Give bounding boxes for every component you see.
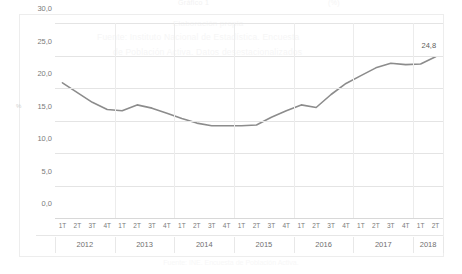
- x-axis-quarter-label: 4T: [100, 221, 115, 231]
- x-axis-quarter-label: 1T: [174, 221, 189, 231]
- x-axis-year-label: 2014: [174, 239, 234, 250]
- x-axis-quarter-label: 3T: [264, 221, 279, 231]
- x-axis-year-labels: 2012201320142015201620172018: [55, 237, 443, 255]
- x-axis-quarter-label: 3T: [204, 221, 219, 231]
- x-axis-quarter-label: 2T: [130, 221, 145, 231]
- y-axis-tick-label: 15,0: [18, 103, 52, 111]
- x-axis-quarter-label: 3T: [383, 221, 398, 231]
- year-separator: [353, 23, 354, 218]
- top-band-right-text: (%): [328, 0, 340, 6]
- year-tick: [413, 237, 414, 253]
- x-axis-year-label: 2016: [294, 239, 354, 250]
- gridline: [55, 218, 443, 219]
- year-separator: [174, 23, 175, 218]
- x-axis-quarter-labels: 1T2T3T4T1T2T3T4T1T2T3T4T1T2T3T4T1T2T3T4T…: [55, 221, 443, 235]
- x-axis-quarter-label: 1T: [55, 221, 70, 231]
- y-axis-tick-label: 20,0: [18, 70, 52, 78]
- x-axis-quarter-label: 2T: [309, 221, 324, 231]
- x-axis-year-label: 2012: [55, 239, 115, 250]
- x-axis-year-label: 2017: [353, 239, 413, 250]
- x-axis-quarter-label: 4T: [279, 221, 294, 231]
- x-axis-quarter-label: 3T: [85, 221, 100, 231]
- year-tick: [55, 237, 56, 253]
- x-axis-quarter-label: 2T: [70, 221, 85, 231]
- gridline: [55, 153, 443, 154]
- x-axis-quarter-label: 2T: [249, 221, 264, 231]
- gridline: [55, 186, 443, 187]
- gridline: [55, 121, 443, 122]
- year-tick: [294, 237, 295, 253]
- x-axis-quarter-label: 3T: [145, 221, 160, 231]
- year-separator: [413, 23, 414, 218]
- top-band: Gráfico 1 (%): [0, 0, 462, 12]
- year-tick: [443, 237, 444, 253]
- x-axis-quarter-label: 3T: [324, 221, 339, 231]
- x-axis-year-label: 2013: [115, 239, 175, 250]
- series-polyline: [62, 57, 435, 126]
- y-axis-tick-label: 5,0: [18, 168, 52, 176]
- x-axis-quarter-label: 4T: [339, 221, 354, 231]
- gridline: [55, 23, 443, 24]
- x-axis-quarter-label: 1T: [294, 221, 309, 231]
- year-tick: [115, 237, 116, 253]
- year-separator: [234, 23, 235, 218]
- x-axis-separator: [36, 235, 443, 236]
- x-axis-year-label: 2015: [234, 239, 294, 250]
- x-axis-quarter-label: 4T: [398, 221, 413, 231]
- chart-screenshot: Gráfico 1 (%) % 0,05,010,015,020,025,030…: [0, 0, 462, 274]
- top-band-left-text: Gráfico 1: [178, 0, 209, 6]
- x-axis-quarter-label: 1T: [353, 221, 368, 231]
- year-separator: [115, 23, 116, 218]
- x-axis-quarter-label: 1T: [115, 221, 130, 231]
- source-caption: Fuente: INE. Encuesta de Población Activ…: [0, 259, 462, 266]
- x-axis-quarter-label: 2T: [428, 221, 443, 231]
- x-axis-year-label: 2018: [413, 239, 443, 250]
- plot-area: Elaboración propia Fuente: Instituto Nac…: [55, 23, 443, 218]
- y-axis-tick-label: 30,0: [18, 5, 52, 13]
- year-tick: [174, 237, 175, 253]
- year-tick: [353, 237, 354, 253]
- x-axis-quarter-label: 4T: [219, 221, 234, 231]
- y-axis-tick-label: 25,0: [18, 38, 52, 46]
- y-axis-tick-label: 10,0: [18, 135, 52, 143]
- x-axis-quarter-label: 1T: [413, 221, 428, 231]
- gridline: [55, 56, 443, 57]
- year-tick: [234, 237, 235, 253]
- x-axis-quarter-label: 2T: [189, 221, 204, 231]
- gridline: [55, 88, 443, 89]
- data-point-label: 24,8: [422, 41, 437, 50]
- x-axis-quarter-label: 4T: [159, 221, 174, 231]
- x-axis-quarter-label: 2T: [368, 221, 383, 231]
- y-axis-tick-label: 0,0: [18, 200, 52, 208]
- year-separator: [294, 23, 295, 218]
- y-axis: % 0,05,010,015,020,025,030,0: [14, 0, 52, 243]
- x-axis-quarter-label: 1T: [234, 221, 249, 231]
